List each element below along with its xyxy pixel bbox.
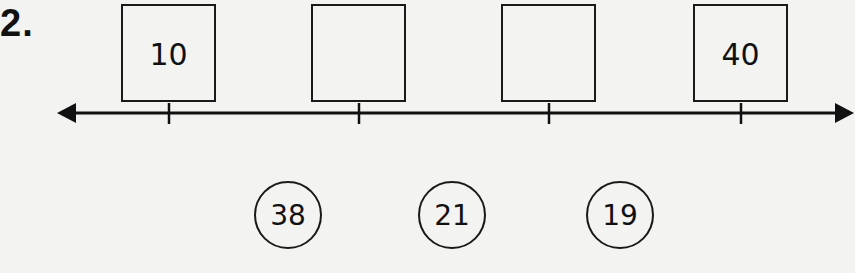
right-arrow-icon [835, 103, 854, 123]
choice-circle-1[interactable]: 38 [254, 181, 322, 249]
choice-value: 38 [270, 199, 306, 232]
choice-value: 19 [602, 199, 638, 232]
choice-value: 21 [434, 199, 470, 232]
left-arrow-icon [57, 103, 76, 123]
answer-box-4[interactable]: 40 [693, 4, 788, 102]
box-value: 40 [721, 37, 759, 72]
answer-box-2[interactable] [311, 4, 406, 102]
choice-circle-3[interactable]: 19 [586, 181, 654, 249]
answer-box-3[interactable] [501, 4, 596, 102]
box-value: 10 [149, 37, 187, 72]
answer-box-1[interactable]: 10 [121, 4, 216, 102]
choice-circle-2[interactable]: 21 [418, 181, 486, 249]
